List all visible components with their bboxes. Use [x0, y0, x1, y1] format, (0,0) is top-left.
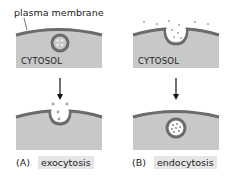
caption-a-name: exocytosis — [38, 156, 94, 169]
panel-b-bottom — [133, 112, 219, 151]
cytosol-label-b: CYTOSOL — [138, 56, 179, 66]
diagram-canvas — [0, 0, 234, 179]
caption-a: (A) exocytosis — [16, 157, 94, 168]
caption-b-letter: (B) — [132, 157, 146, 168]
caption-a-letter: (A) — [16, 157, 30, 168]
plasma-membrane-label: plasma membrane — [14, 7, 104, 18]
cytosol-label-a: CYTOSOL — [21, 56, 62, 66]
caption-b: (B) endocytosis — [132, 157, 217, 168]
panel-a-bottom — [16, 103, 102, 150]
arrow-a — [57, 78, 63, 100]
caption-b-name: endocytosis — [154, 156, 217, 169]
arrow-b — [173, 78, 179, 100]
